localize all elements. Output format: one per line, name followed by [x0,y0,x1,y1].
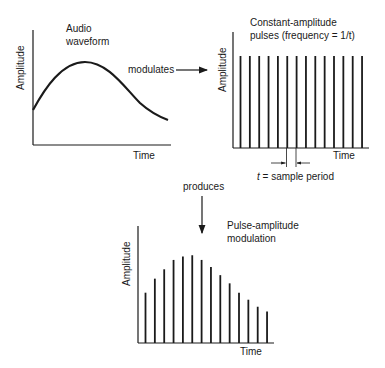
audio-waveform-panel: Audio waveform Amplitude Time [15,23,171,161]
pam-xlabel: Time [240,346,262,357]
modulates-label: modulates [128,64,174,75]
pam-diagram: Audio waveform Amplitude Time modulates … [0,0,385,368]
audio-xlabel: Time [133,150,155,161]
audio-ylabel: Amplitude [15,45,26,90]
carrier-title-line1: Constant-amplitude [250,17,337,28]
carrier-title-line2: pulses (frequency = 1/t) [250,30,355,41]
pam-title-line2: modulation [227,233,276,244]
carrier-xlabel: Time [333,150,355,161]
sample-period-label: t = sample period [257,171,334,182]
carrier-pulse-train [241,56,363,148]
carrier-ylabel: Amplitude [217,47,228,92]
modulates-connector: modulates [128,64,207,75]
produces-label: produces [183,181,224,192]
pam-panel: Pulse-amplitude modulation Amplitude Tim… [121,220,299,357]
produces-connector: produces [183,181,224,233]
pam-pulse-train [146,255,268,343]
audio-title-line1: Audio [66,23,92,34]
pam-title-line1: Pulse-amplitude [227,220,299,231]
carrier-pulses-panel: Constant-amplitude pulses (frequency = 1… [217,17,369,182]
pam-ylabel: Amplitude [121,241,132,286]
audio-title-line2: waveform [65,36,109,47]
